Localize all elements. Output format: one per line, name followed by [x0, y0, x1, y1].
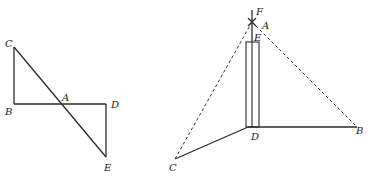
figure-left: C B A D E	[4, 38, 119, 173]
label-a-left: A	[61, 92, 69, 103]
dashed-line-ac	[175, 22, 252, 159]
label-c-right: C	[169, 162, 177, 173]
segment-ce	[14, 47, 106, 157]
label-d-left: D	[110, 99, 119, 110]
label-c-left: C	[5, 38, 13, 49]
geometry-diagram: C B A D E F A E D B C	[0, 0, 371, 179]
label-f-right: F	[255, 6, 264, 17]
figure-right: F A E D B C	[169, 6, 363, 173]
label-b-right: B	[355, 125, 363, 136]
label-d-right: D	[250, 131, 259, 142]
label-a-right: A	[261, 20, 269, 31]
segment-dc	[175, 127, 248, 159]
dashed-line-ab	[252, 22, 357, 127]
label-b-left: B	[4, 106, 12, 117]
label-e-right: E	[253, 32, 262, 43]
label-e-left: E	[103, 162, 112, 173]
